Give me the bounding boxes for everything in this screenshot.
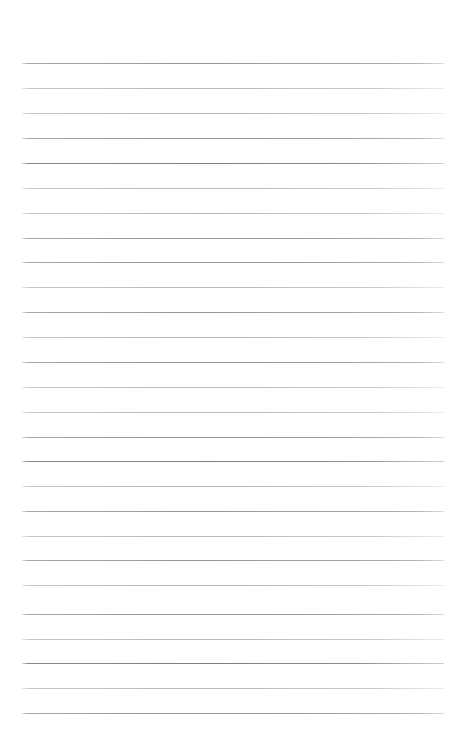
rule-line <box>22 536 444 537</box>
rule-line <box>22 663 444 664</box>
rule-line <box>22 287 444 288</box>
rule-line <box>22 486 444 487</box>
rule-line <box>22 560 444 561</box>
rule-line <box>22 688 444 689</box>
rule-line <box>22 213 444 214</box>
rule-line <box>22 138 444 139</box>
rule-line <box>22 188 444 189</box>
rule-line <box>22 412 444 413</box>
rule-line <box>22 362 444 363</box>
rule-line <box>22 163 444 164</box>
rule-line <box>22 113 444 114</box>
rule-line <box>22 639 444 640</box>
rule-line <box>22 614 444 615</box>
rule-line <box>22 262 444 263</box>
ruled-paper-page <box>0 0 462 754</box>
rule-line <box>22 585 444 586</box>
rule-line-group <box>0 0 462 754</box>
rule-line <box>22 387 444 388</box>
rule-line <box>22 511 444 512</box>
rule-line <box>22 238 444 239</box>
rule-line <box>22 88 444 89</box>
rule-line <box>22 713 444 714</box>
rule-line <box>22 437 444 438</box>
rule-line <box>22 312 444 313</box>
rule-line <box>22 337 444 338</box>
rule-line <box>22 461 444 462</box>
rule-line <box>22 63 444 64</box>
